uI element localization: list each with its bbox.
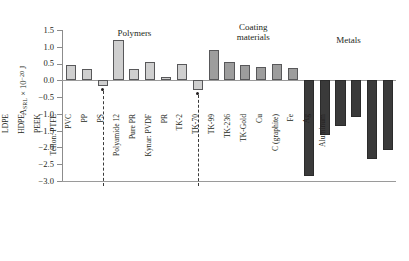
x-axis-label: HDPE [18,114,26,186]
x-axis-label: TK-70 [192,114,200,186]
bar [129,69,139,80]
x-axis-label: Polyamide 12 [113,114,121,186]
bar [145,62,155,81]
bar [240,65,250,81]
x-axis-label: PP [81,114,89,186]
y-axis-tick-label: −0.5 [14,93,54,102]
y-axis-tick [57,80,62,81]
bar [367,80,377,159]
x-axis-label: PR [161,114,169,186]
bar [177,64,187,80]
group-label-polymers: Polymers [89,28,179,38]
x-axis-label: TK-99 [208,114,216,186]
bar [256,67,266,80]
y-axis-tick [57,64,62,65]
bar [66,65,76,80]
bar [161,77,171,81]
group-label-coating-materials: Coating materials [208,22,298,42]
x-axis-label: TK-2 [176,114,184,186]
chart-figure: ASRL × 10−20 J 1.51.00.50.0−0.5−1.0−1.5−… [0,0,409,261]
x-axis-label: Fe [287,114,295,186]
bar [193,80,203,89]
y-axis-tick [57,97,62,98]
x-axis-label: Teflon: PTFE [50,114,58,186]
x-axis-label: Kynar: PVDF [145,114,153,186]
y-axis-tick-label: 1.5 [14,26,54,35]
y-axis-tick-label: 0.5 [14,59,54,68]
x-axis-label: Aluminum [319,114,327,186]
x-axis-label: Cu [256,114,264,186]
x-axis-label: PS [97,114,105,186]
x-axis-label: TK-Gold [240,114,248,186]
bar [82,69,92,80]
bar [98,80,108,86]
group-label-metals: Metals [303,35,393,45]
y-axis-tick-label: 1.0 [14,43,54,52]
y-axis-tick [57,181,62,182]
bar [383,80,393,150]
y-axis-tick [57,164,62,165]
bar [272,64,282,80]
bar [209,50,219,80]
y-axis-tick [57,30,62,31]
x-axis-label: TK-236 [224,114,232,186]
bar [224,62,234,81]
bar [288,68,298,81]
bar [335,80,345,125]
x-axis-label: Pure PR [129,114,137,186]
y-axis-tick [57,47,62,48]
x-axis-label: C (graphite) [272,114,280,186]
x-axis-label: LDPE [2,114,10,186]
y-axis-line [62,30,63,181]
y-axis-tick-label: 0.0 [14,76,54,85]
x-axis-label: Ag [303,114,311,186]
bar [351,80,361,117]
x-axis-label: PVC [65,114,73,186]
bar [113,40,123,80]
x-axis-label: PEEK [34,114,42,186]
